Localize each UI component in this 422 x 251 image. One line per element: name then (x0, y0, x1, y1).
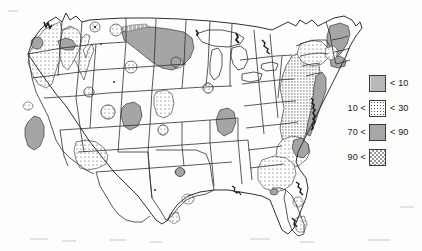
legend-row-70-90: 70 < < 90 (328, 123, 409, 141)
10-30-swatch (369, 100, 386, 117)
map-legend: < 10 10 < < 30 70 < < 90 90 < (328, 74, 420, 178)
legend-70-90-prefix: 70 < (328, 127, 369, 137)
region-nebraska (154, 90, 174, 118)
lt10-swatch (369, 75, 386, 92)
region-olympic-peninsula (31, 37, 43, 49)
legend-row-lt10: < 10 (328, 74, 409, 92)
region-gulf-coast-spot (270, 189, 278, 195)
region-nw-california-spot (23, 102, 33, 110)
figure-root: < 10 10 < < 30 70 < < 90 90 < (0, 0, 422, 251)
legend-10-30-label: < 30 (386, 103, 409, 113)
legend-row-10-30: 10 < < 30 (328, 99, 409, 117)
region-florida-spot (293, 197, 303, 207)
legend-row-90: 90 < (328, 148, 390, 166)
90-swatch (369, 149, 386, 166)
legend-70-90-label: < 90 (386, 127, 409, 137)
70-90-swatch (369, 124, 386, 141)
region-new-england-dots (325, 46, 338, 60)
legend-lt10-label: < 10 (386, 78, 409, 88)
legend-10-30-prefix: 10 < (328, 103, 369, 113)
legend-90-prefix: 90 < (328, 152, 369, 162)
